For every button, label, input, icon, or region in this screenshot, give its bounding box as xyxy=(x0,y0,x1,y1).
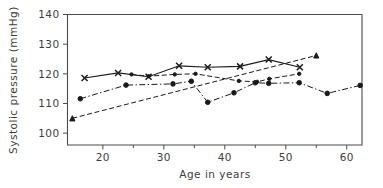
data-point-marker xyxy=(232,91,237,96)
data-point-marker xyxy=(78,96,83,101)
data-point-marker xyxy=(297,72,300,75)
x-axis-tick-labels: 2030405060 xyxy=(96,151,354,163)
data-point-marker xyxy=(314,53,319,58)
data-point-marker xyxy=(253,80,258,85)
x-tick-label: 50 xyxy=(279,151,293,163)
data-point-marker xyxy=(325,91,330,96)
y-axis-tick-labels: 100110120130140 xyxy=(38,8,59,139)
x-axis-ticks xyxy=(103,145,347,150)
data-point-marker xyxy=(124,83,129,88)
x-tick-label: 60 xyxy=(340,151,354,163)
data-point-marker xyxy=(237,79,240,82)
data-point-marker xyxy=(171,82,176,87)
data-point-marker xyxy=(205,100,210,105)
data-point-marker xyxy=(173,73,176,76)
y-tick-label: 110 xyxy=(38,97,59,109)
data-point-marker xyxy=(268,77,271,80)
y-axis-title: Systolic pressure (mmHg) xyxy=(7,6,19,154)
data-point-marker xyxy=(130,73,133,76)
series-circle-marker-dashdot xyxy=(78,79,362,105)
y-tick-label: 140 xyxy=(38,8,59,20)
data-point-marker xyxy=(70,116,75,121)
y-tick-label: 130 xyxy=(38,38,59,50)
axes-frame xyxy=(68,15,363,146)
data-point-marker xyxy=(297,80,302,85)
data-point-marker xyxy=(147,74,150,77)
x-axis-title: Age in years xyxy=(179,168,250,180)
data-point-marker xyxy=(189,79,194,84)
y-tick-label: 120 xyxy=(38,68,59,80)
systolic-pressure-line-chart: 2030405060 100110120130140 Age in years … xyxy=(0,0,383,188)
data-point-marker xyxy=(194,72,197,75)
chart-figure: 2030405060 100110120130140 Age in years … xyxy=(0,0,383,188)
data-point-marker xyxy=(358,83,363,88)
data-point-marker xyxy=(266,81,271,86)
y-axis-ticks xyxy=(63,15,68,134)
x-tick-label: 40 xyxy=(218,151,232,163)
data-series-layer xyxy=(70,53,363,121)
x-tick-label: 20 xyxy=(96,151,110,163)
y-tick-label: 100 xyxy=(38,127,59,139)
x-tick-label: 30 xyxy=(157,151,171,163)
